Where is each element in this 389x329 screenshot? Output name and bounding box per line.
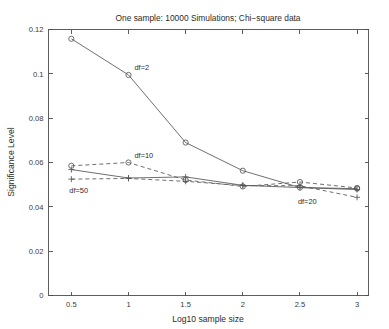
series-line (71, 39, 357, 189)
y-tick-label: 0.08 (29, 114, 44, 123)
y-axis-ticks: 00.020.040.060.080.10.12 (29, 25, 369, 300)
y-tick-label: 0.02 (29, 247, 44, 256)
series-group (68, 36, 360, 200)
y-axis-title: Significance Level (6, 127, 16, 196)
series-label-df-20: df=20 (298, 197, 317, 206)
series-line (71, 163, 357, 188)
data-point-marker (68, 176, 74, 182)
x-tick-label: 2 (241, 300, 245, 309)
series-label-df-10: df=10 (135, 151, 154, 160)
data-point-marker (126, 175, 132, 181)
series-df-2 (69, 36, 360, 191)
y-tick-label: 0.12 (29, 25, 44, 34)
x-tick-label: 1.5 (180, 300, 191, 309)
data-point-marker (354, 194, 360, 200)
x-tick-label: 3 (355, 300, 359, 309)
series-label-df-2: df=2 (135, 63, 150, 72)
y-tick-label: 0.06 (29, 158, 44, 167)
y-tick-label: 0.1 (33, 70, 44, 79)
series-line (71, 170, 357, 190)
plot-frame (49, 30, 369, 296)
x-tick-label: 0.5 (66, 300, 77, 309)
x-tick-label: 2.5 (295, 300, 306, 309)
series-annotations: df=2df=10df=20df=50 (69, 63, 316, 206)
chart-canvas: 00.020.040.060.080.10.12 0.511.522.53 df… (0, 0, 389, 329)
series-label-df-50: df=50 (69, 186, 88, 195)
plot-box (49, 30, 369, 296)
chart-figure: 00.020.040.060.080.10.12 0.511.522.53 df… (0, 0, 389, 329)
y-tick-label: 0 (39, 291, 43, 300)
chart-title: One sample: 10000 Simulations; Chi−squar… (115, 13, 300, 23)
x-tick-label: 1 (126, 300, 130, 309)
y-tick-label: 0.04 (29, 203, 44, 212)
x-axis-ticks: 0.511.522.53 (66, 30, 359, 309)
x-axis-title: Log10 sample size (172, 314, 244, 324)
